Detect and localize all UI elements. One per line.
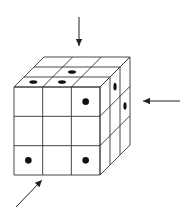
dots-layer [25, 70, 127, 163]
right-grid-receding-line [100, 145, 130, 175]
right-grid-receding-line [100, 57, 130, 87]
top-grid-receding-line [14, 57, 44, 87]
top-face-dot [68, 70, 76, 74]
top-face-dot [58, 80, 66, 84]
right-grid-receding-line [100, 116, 130, 146]
right-face-dot [113, 83, 116, 91]
cube-3x3x3 [14, 57, 130, 175]
top-view-arrowhead-icon [76, 39, 82, 46]
front-face-dot [82, 157, 89, 164]
cube-diagram [0, 0, 192, 221]
top-face-dot [29, 80, 37, 84]
front-face-dot [25, 157, 32, 164]
right-face-dot [123, 102, 126, 110]
right-grid-receding-line [100, 86, 130, 116]
right-view-arrowhead-icon [143, 98, 150, 104]
front-face-dot [82, 98, 89, 105]
arrows-layer [16, 17, 180, 207]
